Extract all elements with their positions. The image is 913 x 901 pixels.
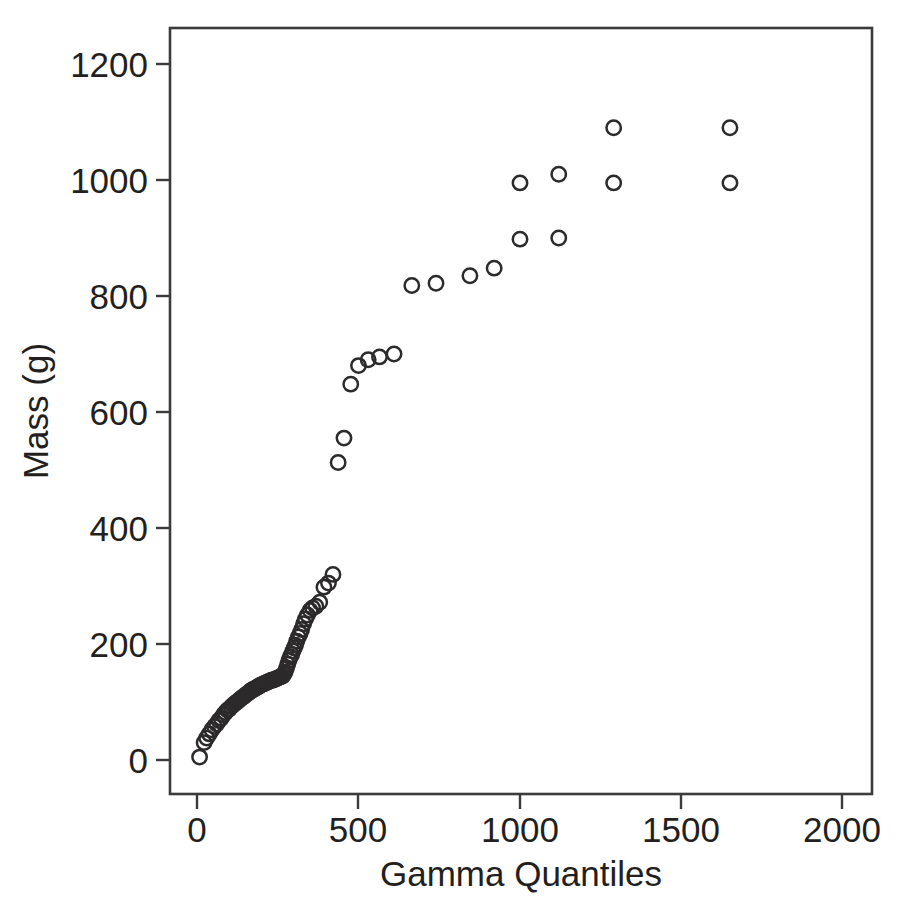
y-tick-label-800: 800	[90, 277, 148, 316]
gamma-quantile-scatter-plot: 0 200 400 600 800 1000 1200 0 500 1000 1…	[0, 0, 913, 901]
x-tick-label-2000: 2000	[803, 810, 881, 849]
x-tick-label-1500: 1500	[642, 810, 720, 849]
y-tick-label-400: 400	[90, 509, 148, 548]
x-axis-title: Gamma Quantiles	[380, 854, 662, 893]
x-tick-label-500: 500	[329, 810, 387, 849]
y-tick-label-600: 600	[90, 393, 148, 432]
y-tick-label-200: 200	[90, 625, 148, 664]
y-tick-label-1200: 1200	[70, 45, 148, 84]
y-tick-label-0: 0	[129, 741, 148, 780]
figure-container: 0 200 400 600 800 1000 1200 0 500 1000 1…	[0, 0, 913, 901]
x-tick-label-0: 0	[187, 810, 206, 849]
y-tick-label-1000: 1000	[70, 161, 148, 200]
y-axis-title: Mass (g)	[16, 343, 55, 479]
x-tick-label-1000: 1000	[481, 810, 559, 849]
